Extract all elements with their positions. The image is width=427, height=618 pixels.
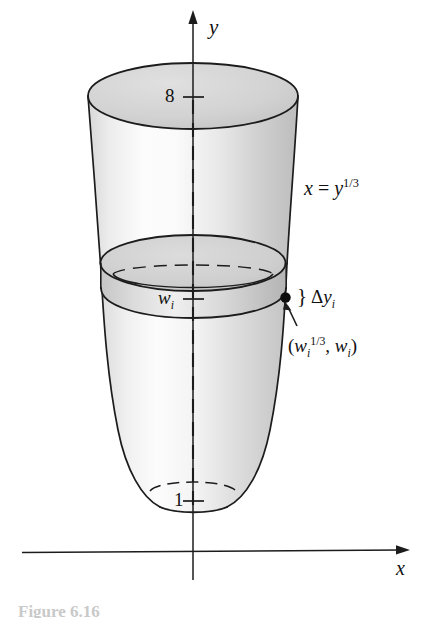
coord-x-var: w bbox=[294, 335, 307, 356]
y-axis-arrowhead bbox=[188, 10, 197, 24]
coord-close-paren: ) bbox=[351, 335, 357, 356]
x-axis-line bbox=[22, 550, 400, 553]
figure-caption: Figure 6.16 bbox=[18, 602, 100, 618]
eq-sign: = bbox=[318, 177, 329, 199]
coord-x-subscript: i bbox=[307, 347, 310, 360]
eq-lhs: x bbox=[304, 177, 313, 199]
x-axis-label: x bbox=[396, 558, 405, 578]
y-tick-label-8: 8 bbox=[165, 86, 175, 105]
solid-of-revolution-drawing bbox=[0, 0, 427, 618]
y-tick-label-1: 1 bbox=[174, 490, 184, 509]
figure-container: y x 8 1 wi x = y1/3 } Δyi (wi1/3, wi) Fi… bbox=[0, 0, 427, 618]
thickness-brace: } bbox=[297, 286, 307, 307]
curve-equation-label: x = y1/3 bbox=[304, 177, 359, 198]
eq-exponent: 1/3 bbox=[343, 176, 359, 190]
delta-symbol: Δ bbox=[311, 286, 323, 307]
x-axis-arrowhead bbox=[396, 545, 410, 554]
eq-base: y bbox=[334, 177, 343, 199]
coord-comma: , bbox=[325, 335, 335, 356]
delta-subscript: i bbox=[332, 298, 335, 311]
coord-y-var: w bbox=[335, 335, 348, 356]
wi-subscript: i bbox=[171, 299, 174, 312]
coord-x-exponent: 1/3 bbox=[310, 335, 325, 348]
wi-var: w bbox=[158, 287, 171, 308]
y-axis-label: y bbox=[209, 17, 218, 38]
thickness-label: Δyi bbox=[311, 287, 335, 311]
y-tick-label-wi: wi bbox=[158, 288, 174, 312]
marked-point-dot bbox=[280, 292, 290, 302]
point-coordinates-label: (wi1/3, wi) bbox=[288, 336, 357, 360]
delta-var: y bbox=[323, 286, 331, 307]
